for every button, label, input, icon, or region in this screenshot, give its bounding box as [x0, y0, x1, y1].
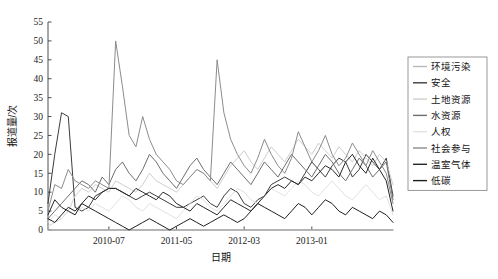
y-axis-title: 报道量/次 — [6, 105, 18, 148]
legend-label-社会参与[interactable]: 社会参与 — [431, 143, 471, 154]
series-line-低碳 — [48, 200, 393, 230]
legend-label-环境污染[interactable]: 环境污染 — [431, 61, 471, 72]
y-tick-label-25: 25 — [34, 131, 44, 141]
y-tick-label-20: 20 — [34, 150, 44, 160]
y-tick-label-55: 55 — [34, 17, 44, 27]
x-tick-label-2011-05: 2011-05 — [161, 236, 193, 246]
series-line-安全 — [48, 113, 393, 211]
legend-label-安全[interactable]: 安全 — [431, 77, 451, 88]
legend-label-土地资源[interactable]: 土地资源 — [431, 94, 471, 105]
y-tick-label-45: 45 — [34, 55, 44, 65]
legend-label-人权[interactable]: 人权 — [431, 126, 451, 137]
legend-label-水资源[interactable]: 水资源 — [431, 110, 461, 121]
y-tick-label-15: 15 — [34, 169, 44, 179]
legend-label-温室气体[interactable]: 温室气体 — [431, 159, 471, 170]
axis-frame — [48, 22, 393, 230]
y-tick-label-30: 30 — [34, 112, 44, 122]
legend-label-低碳[interactable]: 低碳 — [431, 175, 451, 186]
y-tick-label-35: 35 — [34, 93, 44, 103]
series-line-社会参与 — [48, 41, 393, 211]
y-tick-label-50: 50 — [34, 36, 44, 46]
x-tick-label-2010-07: 2010-07 — [93, 236, 125, 246]
x-axis-title: 日期 — [211, 252, 231, 263]
x-tick-label-2013-01: 2013-01 — [296, 236, 328, 246]
y-tick-label-40: 40 — [34, 74, 44, 84]
x-tick-label-2012-03: 2012-03 — [228, 236, 260, 246]
chart-container: 05101520253035404550552010-072011-052012… — [0, 0, 498, 279]
y-tick-label-10: 10 — [34, 187, 44, 197]
y-tick-label-0: 0 — [38, 225, 43, 235]
y-tick-label-5: 5 — [38, 206, 43, 216]
line-chart: 05101520253035404550552010-072011-052012… — [0, 0, 498, 279]
